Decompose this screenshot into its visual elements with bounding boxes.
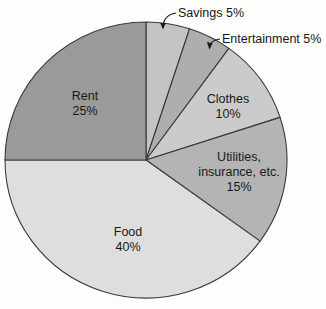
- slice-label-line: Food: [114, 225, 143, 240]
- slice-label-line: Rent: [72, 89, 98, 104]
- slice-label-entertainment: Entertainment 5%: [222, 32, 321, 47]
- slice-label-clothes: Clothes 10%: [207, 92, 249, 122]
- slice-label-food: Food 40%: [114, 225, 143, 255]
- slice-label-line: 25%: [72, 104, 98, 119]
- slice-label-line: Entertainment 5%: [222, 32, 321, 47]
- slice-label-line: 15%: [198, 180, 279, 195]
- slice-label-line: Clothes: [207, 92, 249, 107]
- slice-label-line: Savings 5%: [178, 6, 244, 21]
- slice-label-utilities: Utilities, insurance, etc. 15%: [198, 150, 279, 195]
- slice-label-line: 40%: [114, 240, 143, 255]
- slice-label-savings: Savings 5%: [178, 6, 244, 21]
- budget-pie-chart-figure: Savings 5% Entertainment 5% Clothes 10% …: [0, 0, 326, 309]
- slice-label-rent: Rent 25%: [72, 89, 98, 119]
- slice-label-line: Utilities,: [198, 150, 279, 165]
- slice-label-line: insurance, etc.: [198, 165, 279, 180]
- slice-label-line: 10%: [207, 107, 249, 122]
